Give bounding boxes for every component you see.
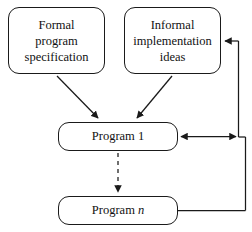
node-program-n-label-text: Program	[92, 203, 135, 218]
node-formal-specification-line-3: specification	[25, 49, 89, 65]
node-informal-ideas[interactable]: Informal implementation ideas	[124, 7, 221, 74]
node-informal-ideas-line-2: implementation	[133, 33, 211, 49]
node-informal-ideas-line-1: Informal	[151, 17, 195, 33]
node-informal-ideas-line-3: ideas	[160, 49, 186, 65]
node-program-1[interactable]: Program 1	[58, 122, 178, 151]
node-formal-specification-line-2: program	[35, 33, 77, 49]
node-program-n[interactable]: Program n	[58, 196, 178, 225]
node-program-1-label: Program 1	[92, 129, 144, 144]
edge-informal-to-program-1	[137, 76, 172, 118]
node-program-n-label-index: n	[135, 203, 144, 218]
edge-formal-to-program-1	[57, 76, 98, 118]
node-formal-specification-line-1: Formal	[38, 17, 74, 33]
diagram-canvas: Formal program specification Informal im…	[0, 0, 252, 232]
node-formal-specification[interactable]: Formal program specification	[8, 7, 105, 74]
